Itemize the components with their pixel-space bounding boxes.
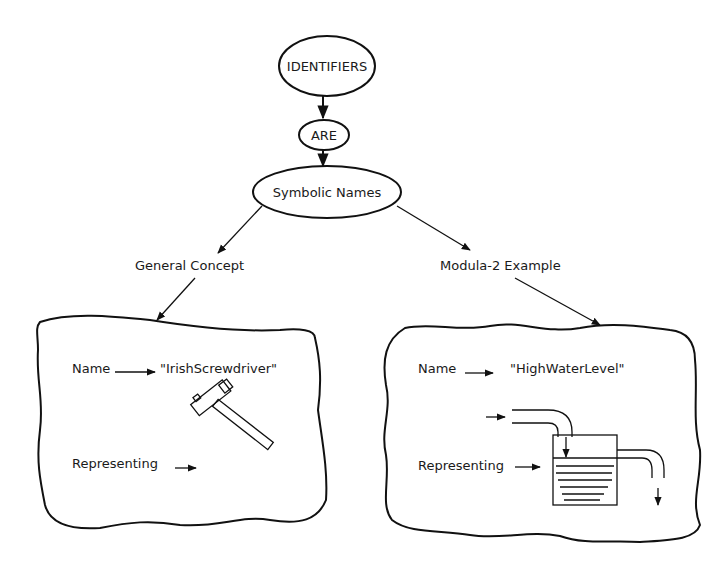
node-symbolic-names-label: Symbolic Names <box>273 185 382 200</box>
node-identifiers: IDENTIFIERS <box>279 36 375 96</box>
arrow-symbolic-general <box>218 206 262 253</box>
branch-label-general-concept: General Concept <box>135 258 244 273</box>
node-identifiers-label: IDENTIFIERS <box>287 59 367 74</box>
right-name-value: "HighWaterLevel" <box>510 361 625 376</box>
left-representing-label: Representing <box>72 456 158 471</box>
identifiers-diagram: IDENTIFIERS ARE Symbolic Names General C… <box>0 0 716 569</box>
node-are-label: ARE <box>311 128 337 143</box>
panel-modula2-example: Name "HighWaterLevel" Representing <box>384 324 700 542</box>
left-name-label: Name <box>72 361 110 376</box>
hammer-icon <box>188 374 276 470</box>
arrow-symbolic-modula <box>397 206 470 250</box>
right-name-label: Name <box>418 361 456 376</box>
left-name-value: "IrishScrewdriver" <box>160 361 277 376</box>
water-tank-icon <box>486 410 664 505</box>
branch-label-modula2-example: Modula-2 Example <box>440 258 561 273</box>
arrow-general-panel <box>157 278 195 320</box>
arrow-modula-panel <box>515 278 600 325</box>
node-are: ARE <box>299 120 349 150</box>
panel-general-concept: Name "IrishScrewdriver" Representing <box>37 316 326 529</box>
right-representing-label: Representing <box>418 458 504 473</box>
node-symbolic-names: Symbolic Names <box>253 166 401 218</box>
